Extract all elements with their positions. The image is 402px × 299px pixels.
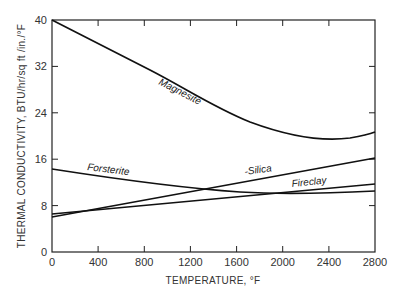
svg-text:32: 32 — [35, 60, 47, 72]
svg-text:40: 40 — [35, 14, 47, 26]
silica-label: -Silica — [244, 162, 273, 177]
svg-text:800: 800 — [135, 256, 153, 268]
fireclay-curve — [52, 184, 375, 214]
svg-text:24: 24 — [35, 107, 47, 119]
svg-text:0: 0 — [49, 256, 55, 268]
x-tick-labels: 0 400 800 1200 1600 2000 2400 2800 — [49, 256, 387, 268]
thermal-conductivity-chart: 0 400 800 1200 1600 2000 2400 2800 0 8 1… — [0, 0, 402, 299]
svg-text:8: 8 — [41, 200, 47, 212]
svg-text:0: 0 — [41, 246, 47, 258]
svg-text:2400: 2400 — [317, 256, 341, 268]
svg-text:2000: 2000 — [270, 256, 294, 268]
magnesite-curve — [52, 20, 375, 139]
fireclay-label: Fireclay — [291, 174, 328, 189]
y-axis-title: THERMAL CONDUCTIVITY, BTU/hr/sq ft /in./… — [16, 24, 27, 248]
plot-frame — [52, 20, 375, 252]
svg-text:1200: 1200 — [178, 256, 202, 268]
magnesite-label: Magnesite — [157, 76, 203, 107]
x-axis-title: TEMPERATURE, °F — [166, 275, 261, 286]
y-tick-labels: 0 8 16 24 32 40 — [35, 14, 47, 258]
svg-text:16: 16 — [35, 153, 47, 165]
x-ticks — [98, 20, 329, 252]
svg-text:1600: 1600 — [224, 256, 248, 268]
svg-text:400: 400 — [89, 256, 107, 268]
svg-text:2800: 2800 — [363, 256, 387, 268]
